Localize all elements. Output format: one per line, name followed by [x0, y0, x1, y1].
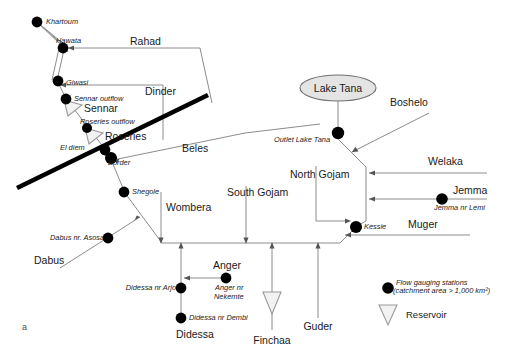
label-dinder: Dinder [145, 85, 176, 97]
north-gojam-arrow-icon [345, 219, 351, 224]
node-didessa-nr-arjo[interactable] [176, 283, 187, 294]
label-north-gojam: North Gojam [290, 168, 350, 180]
legend-reservoir-label: Reservoir [406, 309, 447, 320]
river-schematic-diagram: Rahad Dinder Beles Sennar Roseries [0, 0, 506, 359]
label-hawata: Hawata [56, 36, 81, 45]
label-welaka: Welaka [428, 155, 463, 167]
tributary-north-gojam: North Gojam [290, 166, 351, 224]
label-jemma-nr-lemi: Jemma nr Lemi [433, 203, 485, 212]
node-sennar-outflow[interactable] [61, 94, 72, 105]
stem-shegole-confluence [125, 193, 340, 243]
boshelo-line [352, 113, 429, 152]
finchaa-reservoir-icon [263, 292, 281, 314]
dabus-line [60, 217, 140, 268]
label-roseries: Roseries [105, 130, 146, 142]
tributary-anger: Anger Anger nr Nekemte [184, 259, 244, 301]
legend-group: Flow gauging stations (catchment area > … [379, 278, 491, 325]
reservoir-roseries: Roseries [85, 128, 146, 144]
upper-blue-nile: Kessie [338, 139, 386, 243]
legend-gauging-line2: (catchment area > 1,000 km²) [393, 286, 491, 295]
tributary-rahad: Rahad [68, 35, 212, 103]
legend-reservoir-icon [379, 305, 397, 325]
label-dabus: Dabus [34, 254, 64, 266]
node-anger-nr-nekemte[interactable] [221, 273, 232, 284]
welaka-arrow-icon [369, 171, 375, 176]
label-anger-nr: Anger nr [214, 283, 244, 292]
label-south-gojam: South Gojam [227, 186, 289, 198]
label-didessa-nr-dembi: Didessa nr Dembi [189, 313, 248, 322]
label-didessa-nr-arjo: Didessa nr Arjo [126, 283, 176, 292]
label-beles: Beles [182, 142, 208, 154]
panel-label: a [22, 322, 27, 332]
label-roseries-outflow: Roseries outflow [80, 117, 135, 126]
label-finchaa: Finchaa [253, 334, 291, 346]
node-didessa-nr-dembi[interactable] [176, 313, 187, 324]
label-guder: Guder [303, 320, 333, 332]
tributary-guder: Guder [303, 242, 333, 332]
label-wombera: Wombera [166, 201, 211, 213]
tributary-jemma: Jemma Jemma nr Lemi [369, 184, 488, 212]
label-nekemte: Nekemte [214, 292, 244, 301]
label-boshelo: Boshelo [390, 96, 428, 108]
node-giwasi[interactable] [53, 76, 64, 87]
label-border: Border [108, 158, 131, 167]
label-lake-tana: Lake Tana [314, 82, 362, 94]
label-kessie: Kessie [364, 222, 386, 231]
label-didessa: Didessa [176, 328, 214, 340]
node-dabus-nr-asosa[interactable] [103, 233, 114, 244]
label-el-diem: El diem [60, 143, 85, 152]
tributary-welaka: Welaka [369, 155, 487, 176]
node-kessie[interactable] [350, 221, 362, 233]
tributary-boshelo: Boshelo [352, 96, 429, 152]
jemma-arrow-icon [369, 197, 375, 202]
label-rahad: Rahad [130, 35, 161, 47]
label-jemma: Jemma [453, 184, 488, 196]
label-anger: Anger [213, 259, 242, 271]
tributary-dabus: Dabus nr. Asosa Dabus [34, 216, 140, 268]
tributary-wombera: Wombera [159, 192, 212, 244]
label-giwasi: Giwasi [66, 78, 89, 87]
label-muger: Muger [408, 218, 438, 230]
lake-tana-group: Lake Tana Outlet Lake Tana [274, 75, 376, 144]
label-dabus-nr-asosa: Dabus nr. Asosa [50, 233, 104, 242]
figure-container: Rahad Dinder Beles Sennar Roseries [0, 0, 506, 359]
label-sennar-outflow: Sennar outflow [74, 94, 124, 103]
node-shegole[interactable] [119, 187, 130, 198]
node-khartoum[interactable] [32, 17, 43, 28]
label-sennar: Sennar [84, 102, 118, 114]
anger-arrow-icon [184, 276, 190, 281]
label-shegole: Shegole [132, 187, 159, 196]
label-khartoum: Khartoum [46, 17, 78, 26]
rahad-arrow-icon [68, 46, 74, 51]
tributary-south-gojam: South Gojam [227, 186, 289, 244]
tributary-finchaa: Finchaa [253, 242, 291, 346]
node-outlet-lake-tana[interactable] [332, 127, 344, 139]
label-outlet-lake-tana: Outlet Lake Tana [274, 135, 330, 144]
